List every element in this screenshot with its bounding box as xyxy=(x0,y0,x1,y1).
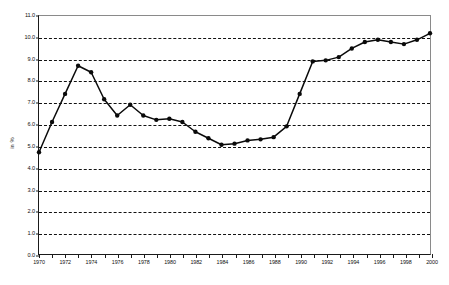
x-axis-tick-label: 1998 xyxy=(400,260,412,265)
x-axis-tick-mark xyxy=(432,254,433,258)
data-point xyxy=(428,31,432,35)
data-point xyxy=(350,46,354,50)
data-point xyxy=(76,64,80,68)
x-axis-tick-mark xyxy=(196,254,197,258)
x-axis-tick-label: 1992 xyxy=(321,260,333,265)
x-axis-tick-label: 1984 xyxy=(217,260,229,265)
plot-area: 11.010.09.08.07.06.05.04.03.02.01.00.019… xyxy=(38,15,431,255)
data-point xyxy=(324,58,328,62)
data-point xyxy=(389,40,393,44)
x-axis-tick-mark xyxy=(353,254,354,258)
data-point xyxy=(297,92,301,96)
y-axis-tick-label: 11.0 xyxy=(25,13,35,19)
x-axis-tick-mark xyxy=(380,254,381,258)
x-axis-tick-mark xyxy=(91,254,92,258)
data-point xyxy=(128,103,132,107)
series-path xyxy=(39,33,430,152)
x-axis-tick-label: 1990 xyxy=(295,260,307,265)
y-axis-tick-label: 5.0 xyxy=(28,144,35,150)
y-axis-tick-label: 1.0 xyxy=(28,231,35,237)
x-axis-tick-label: 1988 xyxy=(269,260,281,265)
data-point xyxy=(245,138,249,142)
x-axis-tick-mark xyxy=(419,254,420,258)
data-point xyxy=(193,130,197,134)
y-axis-title: in % xyxy=(9,137,15,149)
x-axis-tick-mark xyxy=(65,254,66,258)
x-axis-tick-mark xyxy=(367,254,368,258)
x-axis-tick-mark xyxy=(275,254,276,258)
x-axis-tick-mark xyxy=(78,254,79,258)
x-axis-tick-mark xyxy=(340,254,341,258)
x-axis-tick-label: 1980 xyxy=(164,260,176,265)
data-point xyxy=(167,117,171,121)
x-axis-tick-mark xyxy=(144,254,145,258)
data-point xyxy=(63,92,67,96)
data-point xyxy=(337,55,341,59)
data-point xyxy=(219,143,223,147)
data-point xyxy=(415,38,419,42)
x-axis-tick-mark xyxy=(170,254,171,258)
data-point xyxy=(115,113,119,117)
x-axis-tick-mark xyxy=(301,254,302,258)
y-axis-tick-mark xyxy=(36,212,39,213)
x-axis-tick-mark xyxy=(209,254,210,258)
x-axis-tick-mark xyxy=(157,254,158,258)
data-point xyxy=(89,70,93,74)
y-axis-tick-mark xyxy=(36,37,39,38)
x-axis-tick-mark xyxy=(222,254,223,258)
data-point xyxy=(258,137,262,141)
y-axis-tick-label: 9.0 xyxy=(28,57,35,63)
data-point xyxy=(284,124,288,128)
x-axis-tick-mark xyxy=(39,254,40,258)
y-axis-tick-mark xyxy=(36,190,39,191)
x-axis-tick-mark xyxy=(131,254,132,258)
x-axis-tick-mark xyxy=(236,254,237,258)
x-axis-tick-label: 1982 xyxy=(190,260,202,265)
x-axis-tick-label: 1972 xyxy=(59,260,71,265)
x-axis-tick-mark xyxy=(288,254,289,258)
x-axis-tick-mark xyxy=(406,254,407,258)
data-point xyxy=(37,150,41,154)
data-point xyxy=(102,97,106,101)
y-axis-tick-label: 10.0 xyxy=(25,35,36,41)
data-point xyxy=(180,120,184,124)
y-axis-tick-mark xyxy=(36,81,39,82)
y-axis-tick-mark xyxy=(36,125,39,126)
data-point xyxy=(232,141,236,145)
y-axis-tick-label: 4.0 xyxy=(28,166,35,172)
x-axis-tick-mark xyxy=(249,254,250,258)
data-point xyxy=(50,120,54,124)
series-markers xyxy=(37,31,432,154)
x-axis-tick-mark xyxy=(52,254,53,258)
y-axis-tick-mark xyxy=(36,168,39,169)
data-point xyxy=(376,38,380,42)
x-axis-tick-mark xyxy=(327,254,328,258)
y-axis-tick-mark xyxy=(36,146,39,147)
x-axis-tick-mark xyxy=(118,254,119,258)
data-point xyxy=(271,135,275,139)
x-axis-tick-label: 1996 xyxy=(374,260,386,265)
y-axis-tick-mark xyxy=(36,59,39,60)
x-axis-tick-label: 1986 xyxy=(243,260,255,265)
x-axis-tick-mark xyxy=(262,254,263,258)
x-axis-tick-mark xyxy=(314,254,315,258)
y-axis-tick-label: 2.0 xyxy=(28,210,35,216)
y-axis-tick-mark xyxy=(36,16,39,17)
x-axis-tick-mark xyxy=(183,254,184,258)
y-axis-tick-mark xyxy=(36,103,39,104)
y-axis-tick-label: 7.0 xyxy=(28,100,35,106)
chart-container: in % 11.010.09.08.07.06.05.04.03.02.01.0… xyxy=(0,0,449,285)
data-point xyxy=(154,118,158,122)
x-axis-tick-mark xyxy=(105,254,106,258)
data-point xyxy=(141,113,145,117)
x-axis-tick-label: 1994 xyxy=(348,260,360,265)
x-axis-tick-label: 1974 xyxy=(86,260,98,265)
x-axis-tick-label: 1970 xyxy=(33,260,45,265)
y-axis-tick-label: 3.0 xyxy=(28,188,35,194)
y-axis-tick-label: 6.0 xyxy=(28,122,35,128)
x-axis-tick-label: 1978 xyxy=(138,260,150,265)
data-point xyxy=(311,59,315,63)
y-axis-tick-label: 0.0 xyxy=(28,253,35,259)
data-point xyxy=(363,40,367,44)
data-point xyxy=(206,136,210,140)
